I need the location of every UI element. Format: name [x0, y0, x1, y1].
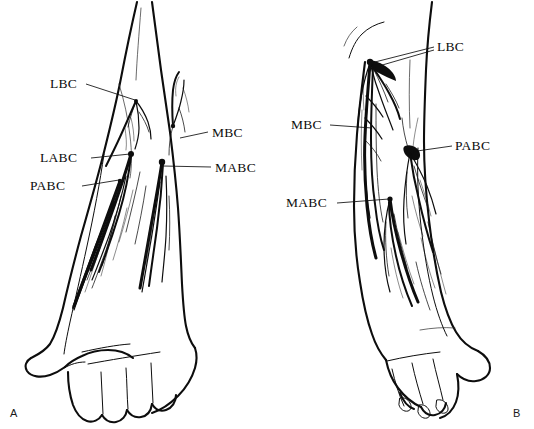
- label-a-mabc: MABC: [215, 160, 256, 175]
- label-b-lbc: LBC: [437, 39, 464, 54]
- leader-b-lbc-secondary: [372, 50, 434, 68]
- label-b-pabc: PABC: [455, 138, 490, 153]
- leader-b-mabc: [337, 199, 389, 203]
- panel-b-limb: [344, 2, 490, 418]
- anatomical-figure: LBC LABC PABC MBC MABC LBC MBC PABC MABC…: [0, 0, 534, 429]
- label-a-pabc: PABC: [30, 178, 65, 193]
- label-b-mbc: MBC: [291, 117, 322, 132]
- leader-lines: [82, 47, 452, 203]
- leader-a-pabc: [82, 180, 119, 186]
- panel-letter-a: A: [10, 407, 18, 419]
- leader-b-lbc: [371, 47, 434, 63]
- panel-a-limb: [26, 2, 197, 422]
- leader-a-mbc: [180, 132, 208, 138]
- label-a-lbc: LBC: [50, 76, 77, 91]
- label-a-labc: LABC: [40, 150, 77, 165]
- label-b-mabc: MABC: [286, 195, 327, 210]
- panel-letter-b: B: [513, 407, 520, 419]
- label-a-mbc: MBC: [212, 125, 243, 140]
- figure-canvas: LBC LABC PABC MBC MABC LBC MBC PABC MABC…: [0, 0, 534, 429]
- leader-a-mabc: [163, 166, 211, 167]
- leader-a-lbc: [86, 84, 135, 100]
